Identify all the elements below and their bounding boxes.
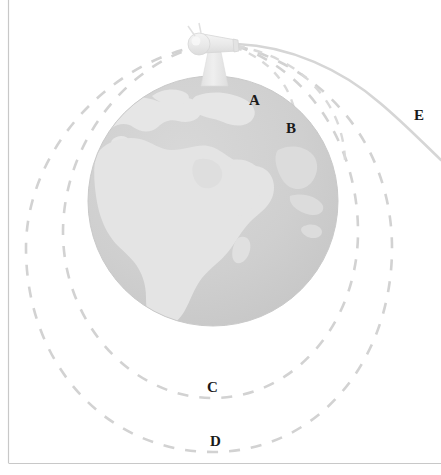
cannon [188, 23, 239, 55]
label-B: B [286, 120, 296, 136]
cannon-tower [201, 52, 228, 86]
label-A: A [249, 92, 260, 108]
diagram-canvas: A B C D E [0, 0, 441, 475]
label-C: C [207, 379, 218, 395]
label-E: E [414, 107, 424, 123]
earth-globe [88, 72, 342, 330]
newtons-cannonball-diagram: A B C D E [0, 0, 441, 475]
label-D: D [210, 433, 221, 449]
cannon-muzzle [233, 39, 239, 52]
cannon-fuse-1 [188, 26, 195, 36]
cannon-fuse-2 [199, 23, 201, 33]
cannon-highlight [192, 37, 201, 46]
